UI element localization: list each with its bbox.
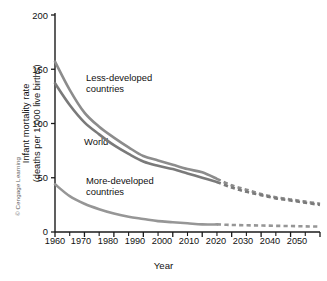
chart-plot-area <box>0 0 327 281</box>
series-path-0-historical <box>55 62 217 179</box>
series-path-2-historical <box>55 184 217 224</box>
series-lines <box>55 62 320 227</box>
x-axis-ticks <box>55 232 320 237</box>
series-path-0-projected <box>217 179 320 204</box>
series-path-2-projected <box>217 224 320 226</box>
series-path-1-historical <box>55 83 217 182</box>
infant-mortality-chart: © Cengage Learning Infant mortality rate… <box>0 0 327 281</box>
